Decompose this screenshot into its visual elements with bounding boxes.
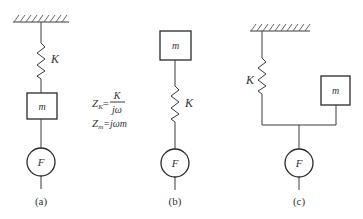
diagram-b: m K F (b)	[160, 31, 194, 208]
ceiling-a	[13, 15, 69, 22]
formula-mass-impedance: Zm=jωm	[92, 117, 127, 131]
spring-label-b: K	[184, 96, 194, 110]
svg-text:jω: jω	[110, 104, 122, 115]
spring-b	[171, 86, 179, 122]
caption-b: (b)	[169, 195, 182, 208]
spring-c	[258, 58, 266, 94]
caption-c: (c)	[293, 195, 306, 208]
force-label-b: F	[171, 157, 179, 169]
diagram-c: K m F (c)	[245, 24, 350, 208]
svg-text:ZK=: ZK=	[92, 97, 109, 111]
caption-a: (a)	[35, 195, 48, 208]
spring-label-a: K	[50, 52, 60, 66]
svg-text:Zm=jωm: Zm=jωm	[92, 117, 127, 131]
diagram-a: K m F (a)	[13, 15, 69, 208]
formula-spring-impedance: ZK= K jω	[92, 90, 125, 115]
mass-label-b: m	[172, 40, 179, 51]
svg-text:K: K	[113, 90, 122, 101]
force-label-c: F	[295, 157, 303, 169]
mass-label-a: m	[38, 101, 45, 112]
spring-a	[37, 43, 45, 79]
impedance-formulas: ZK= K jω Zm=jωm	[92, 90, 127, 131]
force-label-a: F	[37, 156, 45, 168]
mass-label-c: m	[332, 85, 339, 96]
mechanical-impedance-diagram: K m F (a) ZK= K jω Zm=jωm m	[0, 0, 363, 219]
spring-label-c: K	[245, 73, 255, 87]
ceiling-c	[250, 24, 310, 31]
